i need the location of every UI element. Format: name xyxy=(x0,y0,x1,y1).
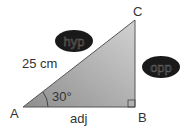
opp-oval-label: opp xyxy=(150,60,172,75)
hyp-oval-label: hyp xyxy=(64,34,85,49)
hypotenuse-length: 25 cm xyxy=(22,56,57,71)
vertex-label-a: A xyxy=(10,106,19,121)
vertex-label-b: B xyxy=(138,110,147,125)
angle-a-label: 30° xyxy=(52,89,72,104)
adjacent-label: adj xyxy=(70,111,87,126)
triangle-diagram: hyp opp C A B 25 cm 30° adj xyxy=(0,0,195,137)
vertex-label-c: C xyxy=(133,4,142,19)
